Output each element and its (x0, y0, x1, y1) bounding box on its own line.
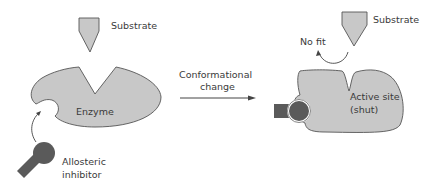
substrate-left-label: Substrate (111, 20, 157, 31)
rejection-arrow-icon (316, 50, 348, 63)
conformational-change-arrow-icon (180, 96, 256, 101)
substrate-right-label: Substrate (373, 14, 419, 25)
substrate-left (79, 18, 99, 52)
allosteric-inhibitor-left (17, 142, 55, 178)
transition-label-line2: change (200, 81, 235, 92)
active-site-label-line1: Active site (350, 91, 400, 102)
allosteric-inhibitor-bound (274, 99, 311, 123)
inhibitor-label-line1: Allosteric (62, 156, 106, 167)
transition-label-line1: Conformational (179, 69, 252, 80)
no-fit-label: No fit (300, 36, 326, 47)
enzyme-label: Enzyme (76, 106, 114, 117)
active-site-label-line2: (shut) (350, 104, 378, 115)
allosteric-inhibition-diagram: Substrate Enzyme Allosteric inhibitor Co… (0, 0, 433, 193)
binding-arrow-icon (32, 111, 41, 142)
enzyme-left (31, 67, 161, 127)
inhibitor-label-line2: inhibitor (62, 169, 102, 180)
substrate-right (342, 12, 367, 46)
